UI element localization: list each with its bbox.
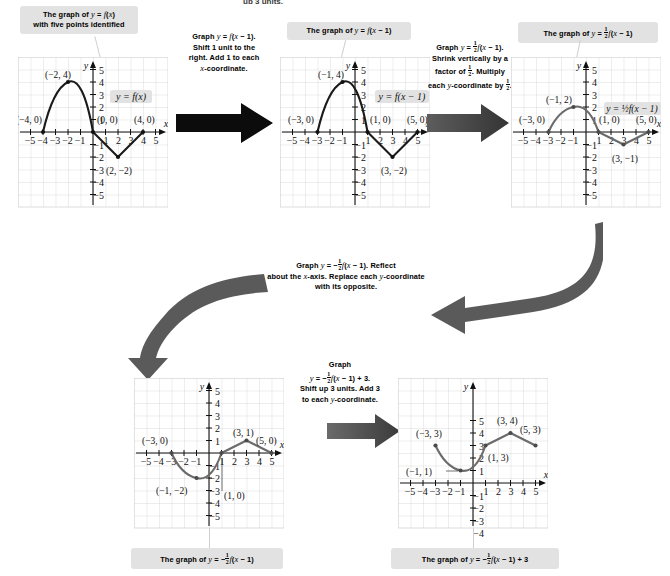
svg-text:−4: −4	[473, 528, 484, 539]
graph-panel-5: −5−4 −3−2−1 123 45 543 21 −1−2 −3−4 (−3,…	[398, 378, 548, 540]
svg-text:3: 3	[391, 135, 396, 146]
svg-text:−3: −3	[50, 135, 61, 146]
svg-text:−2: −2	[93, 152, 104, 163]
svg-text:(3, −2): (3, −2)	[381, 166, 407, 177]
svg-text:4: 4	[99, 77, 104, 88]
callout-tail-2	[341, 40, 347, 58]
svg-text:(5, 0): (5, 0)	[636, 115, 657, 126]
svg-text:−5: −5	[405, 486, 416, 497]
callout-panel-1-text: The graph of y = f(x)with five points id…	[33, 10, 124, 29]
svg-text:−4: −4	[299, 135, 310, 146]
svg-text:5: 5	[270, 456, 275, 467]
svg-text:−1: −1	[337, 135, 348, 146]
svg-text:2: 2	[99, 102, 104, 113]
instruction-3: Graph y = −12f(x − 1). Reflectabout the …	[248, 258, 444, 293]
svg-text:y: y	[345, 60, 351, 71]
svg-text:−4: −4	[530, 135, 541, 146]
svg-text:−3: −3	[430, 486, 441, 497]
arrow-right-black-1	[176, 103, 274, 147]
instruction-2-text: Graph y = 12f(x − 1).Shrink vertically b…	[428, 43, 512, 90]
svg-text:−4: −4	[37, 135, 48, 146]
svg-text:4: 4	[521, 486, 526, 497]
svg-text:−1: −1	[568, 135, 579, 146]
svg-text:−2: −2	[355, 152, 366, 163]
svg-text:4: 4	[141, 135, 146, 146]
graph-panel-4: −5−4 −3−2−1 123 45 543 21 −1−2 −3−4−5 (−…	[134, 378, 284, 540]
svg-text:5: 5	[154, 135, 159, 146]
svg-text:(−1, 2): (−1, 2)	[546, 95, 572, 106]
svg-text:3: 3	[509, 486, 514, 497]
callout-panel-5-text: The graph of y = −12f(x − 1) + 3	[422, 555, 528, 564]
svg-text:(2, −2): (2, −2)	[106, 166, 132, 177]
callout-tail-4	[209, 528, 210, 548]
svg-text:−3: −3	[93, 165, 104, 176]
svg-text:(1, 0): (1, 0)	[599, 115, 620, 126]
svg-text:−1: −1	[586, 140, 597, 151]
svg-text:−5: −5	[355, 190, 366, 201]
svg-text:−4: −4	[93, 177, 104, 188]
graph-panel-1: −5−4 −3−2 −1 12 345 543 21 −1−2 −3−4−5 (…	[18, 57, 168, 219]
svg-text:−3: −3	[312, 135, 323, 146]
svg-text:−4: −4	[417, 486, 428, 497]
callout-panel-5: The graph of y = −12f(x − 1) + 3	[391, 548, 559, 569]
svg-text:(−1, 4): (−1, 4)	[318, 70, 344, 81]
svg-text:5: 5	[647, 135, 652, 146]
svg-text:−5: −5	[518, 135, 529, 146]
instruction-3-text: Graph y = −12f(x − 1). Reflectabout the …	[267, 261, 425, 291]
svg-text:−1: −1	[355, 140, 366, 151]
svg-text:−4: −4	[586, 177, 597, 188]
svg-text:−2: −2	[473, 503, 484, 514]
callout-panel-3: The graph of y = 12f(x − 1)	[518, 22, 658, 43]
graph-panel-2: −5−4 −3−2−1 123 45 543 21 −1−2 −3−4−5 (−…	[280, 57, 430, 219]
svg-text:−2: −2	[442, 486, 453, 497]
svg-text:1: 1	[484, 486, 489, 497]
svg-text:2: 2	[592, 102, 597, 113]
svg-text:4: 4	[592, 77, 597, 88]
svg-text:−3: −3	[473, 516, 484, 527]
cropped-title-fragment: up 3 units.	[243, 0, 283, 4]
svg-text:(3, −1): (3, −1)	[612, 154, 638, 165]
svg-text:4: 4	[479, 428, 484, 439]
callout-panel-4-text: The graph of y = −12f(x − 1)	[160, 555, 254, 564]
svg-text:(1, 0): (1, 0)	[224, 491, 245, 502]
svg-text:4: 4	[361, 77, 366, 88]
svg-text:y = f(x): y = f(x)	[115, 91, 147, 103]
svg-text:y = f(x − 1): y = f(x − 1)	[378, 91, 426, 103]
svg-text:−2: −2	[209, 473, 220, 484]
svg-text:(3, 1): (3, 1)	[233, 428, 254, 439]
callout-tail-1	[94, 36, 100, 58]
svg-text:−2: −2	[586, 152, 597, 163]
svg-text:2: 2	[116, 135, 121, 146]
svg-text:y = ½f(x − 1): y = ½f(x − 1)	[605, 104, 658, 115]
svg-text:(0, 0): (0, 0)	[97, 115, 118, 126]
svg-text:5: 5	[99, 65, 104, 76]
svg-text:(1, 3): (1, 3)	[488, 453, 509, 464]
svg-text:−3: −3	[586, 165, 597, 176]
svg-text:−2: −2	[324, 135, 335, 146]
svg-text:x: x	[656, 118, 661, 129]
instruction-1: Graph y = f(x − 1).Shift 1 unit to theri…	[168, 32, 280, 74]
instruction-4: Graphy = −12f(x − 1) + 3.Shift up 3 unit…	[282, 360, 398, 405]
svg-text:−5: −5	[209, 511, 220, 522]
svg-text:(−3, 0): (−3, 0)	[519, 115, 545, 126]
svg-text:(5, 0): (5, 0)	[407, 115, 428, 126]
svg-text:1: 1	[366, 135, 371, 146]
arrow-right-gray-2	[427, 104, 510, 146]
svg-text:y: y	[576, 60, 582, 71]
svg-text:(−1, 1): (−1, 1)	[406, 467, 432, 478]
svg-text:−1: −1	[455, 486, 466, 497]
svg-text:−3: −3	[209, 486, 220, 497]
callout-panel-2-text: The graph of y = f(x − 1)	[307, 26, 392, 35]
svg-text:5: 5	[479, 416, 484, 427]
svg-text:−1: −1	[191, 456, 202, 467]
svg-text:4: 4	[257, 456, 262, 467]
svg-text:(1, 0): (1, 0)	[370, 115, 391, 126]
callout-panel-4: The graph of y = −12f(x − 1)	[131, 548, 283, 569]
svg-text:(5, 0): (5, 0)	[256, 436, 277, 447]
svg-text:2: 2	[215, 423, 220, 434]
svg-text:1: 1	[215, 436, 220, 447]
svg-text:x: x	[543, 469, 548, 480]
callout-tail-5	[473, 528, 474, 548]
svg-text:5: 5	[592, 65, 597, 76]
svg-text:−4: −4	[209, 498, 220, 509]
